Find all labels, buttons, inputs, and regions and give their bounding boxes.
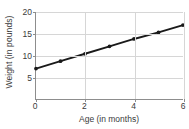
- line-chart-figure: Weight (in pounds) 5101520 0246 Age (in …: [0, 0, 189, 129]
- x-axis-tick-label: 0: [33, 101, 38, 111]
- y-axis-tick-label: 5: [27, 73, 32, 83]
- data-point-marker: [59, 59, 63, 63]
- y-axis-title: Weight (in pounds): [0, 0, 16, 104]
- gridline-horizontal: [36, 12, 183, 13]
- y-axis-tick-label: 20: [23, 7, 32, 17]
- y-axis-title-text: Weight (in pounds): [3, 16, 13, 89]
- y-axis-tick-label: 10: [23, 51, 32, 61]
- gridline-horizontal: [36, 56, 183, 57]
- data-point-marker: [108, 44, 112, 48]
- y-axis-tick-labels: 5101520: [16, 0, 34, 129]
- gridline-vertical: [135, 12, 136, 99]
- plot-area: [35, 12, 183, 100]
- y-axis-tick-mark: [33, 78, 36, 79]
- gridline-vertical: [85, 12, 86, 99]
- x-axis-tick-labels: 0246: [35, 101, 183, 114]
- x-axis-title: Age (in months): [35, 114, 183, 124]
- y-axis-tick-label: 15: [23, 29, 32, 39]
- data-point-marker: [34, 67, 38, 71]
- x-axis-tick-label: 2: [82, 101, 87, 111]
- x-axis-tick-label: 4: [131, 101, 136, 111]
- gridline-vertical: [184, 12, 185, 99]
- y-axis-tick-mark: [33, 56, 36, 57]
- y-axis-tick-mark: [33, 12, 36, 13]
- gridline-horizontal: [36, 78, 183, 79]
- gridline-horizontal: [36, 34, 183, 35]
- y-axis-tick-mark: [33, 34, 36, 35]
- x-axis-tick-label: 6: [181, 101, 186, 111]
